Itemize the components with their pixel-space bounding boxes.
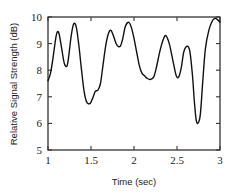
y-axis-title: Relative Signal Strength (dB) <box>8 23 19 146</box>
y-tick-label: 8 <box>37 64 43 76</box>
line-chart: Relative Signal Strength (dB) Time (sec)… <box>0 0 234 194</box>
x-tick-label: 2 <box>131 154 137 166</box>
x-tick-label: 3 <box>217 154 223 166</box>
x-tick-label: 1.5 <box>84 154 98 166</box>
signal-line <box>48 18 220 123</box>
y-tick-label: 5 <box>37 144 43 156</box>
x-axis-label: Time (sec) <box>112 176 157 187</box>
y-tick-label: 10 <box>31 11 43 23</box>
y-tick-label: 6 <box>37 117 43 129</box>
x-tick-label: 1 <box>45 154 51 166</box>
x-tick-label: 2.5 <box>170 154 184 166</box>
y-tick-label: 7 <box>37 91 43 103</box>
y-tick-label: 9 <box>37 38 43 50</box>
y-axis-label: Relative Signal Strength (dB) <box>8 23 19 146</box>
